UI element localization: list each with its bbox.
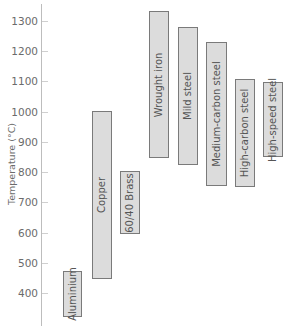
- y-axis-line: [41, 4, 42, 326]
- y-tick: [42, 112, 48, 113]
- bar-brass: 60/40 Brass: [120, 171, 140, 234]
- bar-wrought-iron: Wrought iron: [149, 11, 169, 158]
- temperature-range-chart: Temperature (°C) 1300 1200 1100 1000 900…: [0, 0, 285, 328]
- bar-label: Mild steel: [182, 72, 194, 120]
- bar-high-speed-steel: High-speed steel: [263, 82, 283, 157]
- y-tick-label: 1100: [0, 75, 38, 87]
- y-tick-label: 1300: [0, 15, 38, 27]
- y-tick: [42, 233, 48, 234]
- y-tick-label: 600: [0, 227, 38, 239]
- y-tick-label: 900: [0, 136, 38, 148]
- y-tick: [42, 81, 48, 82]
- bar-label: Copper: [96, 177, 108, 213]
- y-tick: [42, 51, 48, 52]
- bar-aluminium: Aluminium: [63, 271, 82, 317]
- y-tick-label: 500: [0, 257, 38, 269]
- bar-medium-carbon-steel: Medium-carbon steel: [206, 42, 227, 186]
- y-tick: [42, 142, 48, 143]
- y-tick: [42, 21, 48, 22]
- y-tick: [42, 202, 48, 203]
- bar-mild-steel: Mild steel: [178, 27, 198, 165]
- bar-label: Aluminium: [67, 267, 79, 321]
- y-tick: [42, 263, 48, 264]
- y-tick-label: 800: [0, 166, 38, 178]
- bar-label: Wrought iron: [153, 52, 165, 117]
- y-tick-label: 700: [0, 196, 38, 208]
- y-tick-label: 400: [0, 287, 38, 299]
- bar-label: High-speed steel: [267, 77, 279, 161]
- y-tick: [42, 293, 48, 294]
- bar-label: Medium-carbon steel: [211, 61, 223, 167]
- bar-label: 60/40 Brass: [124, 173, 136, 233]
- y-tick-label: 1200: [0, 45, 38, 57]
- bar-label: High-carbon steel: [239, 89, 251, 178]
- bar-high-carbon-steel: High-carbon steel: [235, 79, 255, 187]
- y-tick-label: 1000: [0, 106, 38, 118]
- y-tick: [42, 172, 48, 173]
- bar-copper: Copper: [92, 111, 112, 279]
